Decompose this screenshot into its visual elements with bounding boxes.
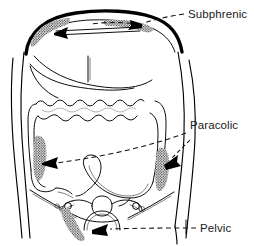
label-paracolic: Paracolic — [190, 119, 238, 131]
label-pelvic: Pelvic — [200, 222, 231, 234]
label-subphrenic: Subphrenic — [188, 8, 247, 20]
anatomy-figure: Subphrenic Paracolic Pelvic — [0, 0, 254, 246]
anatomy-diagram-canvas: Subphrenic Paracolic Pelvic — [0, 0, 254, 246]
